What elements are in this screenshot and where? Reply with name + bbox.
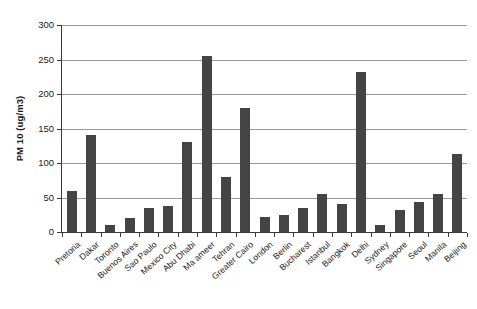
x-tick-mark <box>351 233 352 237</box>
x-tick-mark <box>448 233 449 237</box>
gridline-50 <box>62 198 467 199</box>
bar <box>279 215 289 232</box>
y-tick-label: 100 <box>24 158 54 168</box>
bar <box>375 225 385 232</box>
x-tick-mark <box>274 233 275 237</box>
bar <box>395 210 405 232</box>
y-tick-label-wrap: 0 <box>20 227 54 237</box>
pm10-bar-chart: PM 10 (ug/m3) 050100150200250300 Pretori… <box>0 0 477 309</box>
x-tick-mark <box>371 233 372 237</box>
x-tick-mark <box>428 233 429 237</box>
x-tick-mark <box>81 233 82 237</box>
bar <box>221 177 231 232</box>
gridline-150 <box>62 129 467 130</box>
y-tick-label: 250 <box>24 55 54 65</box>
bar <box>298 208 308 232</box>
y-tick-label: 150 <box>24 124 54 134</box>
x-tick-mark <box>293 233 294 237</box>
x-tick-mark <box>390 233 391 237</box>
y-tick-label-wrap: 100 <box>20 158 54 168</box>
y-tick-label: 200 <box>24 89 54 99</box>
x-tick-mark <box>409 233 410 237</box>
x-tick-mark <box>255 233 256 237</box>
y-tick-label-wrap: 250 <box>20 55 54 65</box>
bar <box>163 206 173 232</box>
plot-area <box>62 25 467 232</box>
y-tick-label-wrap: 300 <box>20 20 54 30</box>
x-axis-line <box>61 232 467 233</box>
bar <box>452 154 462 232</box>
y-tick-label: 300 <box>24 20 54 30</box>
x-tick-mark <box>178 233 179 237</box>
bar <box>414 202 424 232</box>
bar <box>125 218 135 232</box>
y-tick-label: 0 <box>24 227 54 237</box>
bar <box>317 194 327 232</box>
bar <box>240 108 250 232</box>
bar <box>433 194 443 232</box>
y-tick-label: 50 <box>24 193 54 203</box>
gridline-250 <box>62 60 467 61</box>
x-tick-mark <box>62 233 63 237</box>
bar <box>337 204 347 232</box>
bar <box>67 191 77 232</box>
bar <box>144 208 154 232</box>
y-tick-label-wrap: 150 <box>20 124 54 134</box>
bar <box>202 56 212 232</box>
bar <box>105 225 115 232</box>
bar <box>356 72 366 232</box>
gridline-200 <box>62 94 467 95</box>
x-tick-mark <box>101 233 102 237</box>
x-tick-mark <box>158 233 159 237</box>
x-tick-mark <box>313 233 314 237</box>
y-tick-label-wrap: 50 <box>20 193 54 203</box>
bar <box>260 217 270 232</box>
x-tick-mark <box>467 233 468 237</box>
bar <box>182 142 192 232</box>
x-tick-mark <box>197 233 198 237</box>
x-tick-mark <box>216 233 217 237</box>
x-tick-mark <box>139 233 140 237</box>
x-tick-mark <box>332 233 333 237</box>
x-tick-mark <box>120 233 121 237</box>
gridline-100 <box>62 163 467 164</box>
bar <box>86 135 96 232</box>
gridline-300 <box>62 25 467 26</box>
x-tick-mark <box>236 233 237 237</box>
y-tick-label-wrap: 200 <box>20 89 54 99</box>
